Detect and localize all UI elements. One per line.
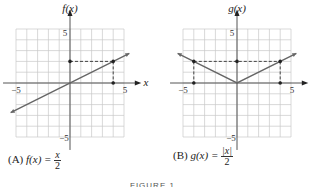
data-point bbox=[235, 60, 239, 64]
data-point bbox=[192, 81, 196, 85]
y-tick-label: 5 bbox=[230, 28, 235, 38]
y-tick-label: −5 bbox=[59, 133, 69, 143]
x-tick-label: 5 bbox=[290, 85, 295, 95]
y-axis-label: f(x) bbox=[62, 2, 78, 15]
caption-a-lhs: f(x) = bbox=[26, 153, 51, 165]
y-axis-label: g(x) bbox=[228, 2, 246, 15]
y-tick-label: −5 bbox=[226, 133, 236, 143]
caption-b-fraction: |x| 2 bbox=[221, 146, 233, 167]
x-tick-label: −5 bbox=[11, 85, 21, 95]
data-point bbox=[111, 81, 115, 85]
data-point bbox=[278, 60, 282, 64]
x-tick-label: −5 bbox=[178, 85, 188, 95]
caption-b-denominator: 2 bbox=[221, 157, 233, 167]
caption-b: (B) g(x) = |x| 2 bbox=[173, 146, 233, 167]
figure-caption: FIGURE 1 bbox=[130, 181, 175, 187]
caption-a-fraction: x 2 bbox=[54, 150, 60, 171]
caption-a-denominator: 2 bbox=[54, 161, 60, 171]
x-tick-label: 5 bbox=[123, 85, 128, 95]
data-point bbox=[192, 60, 196, 64]
x-axis-arrow-icon bbox=[302, 81, 308, 86]
graph-panel-a: 5−5−55f(x)x bbox=[3, 2, 148, 150]
x-axis-label: x bbox=[142, 76, 148, 88]
data-point bbox=[68, 60, 72, 64]
caption-b-lhs: g(x) = bbox=[190, 149, 218, 161]
graph-panel-b: 5−5−55g(x)x bbox=[170, 2, 310, 150]
caption-a: (A) f(x) = x 2 bbox=[8, 150, 61, 171]
caption-b-label: (B) bbox=[173, 149, 188, 161]
x-axis-arrow-icon bbox=[135, 81, 141, 86]
y-tick-label: 5 bbox=[63, 28, 68, 38]
data-point bbox=[111, 60, 115, 64]
caption-a-label: (A) bbox=[8, 153, 23, 165]
x-axis-label: x bbox=[309, 76, 310, 88]
data-point bbox=[278, 81, 282, 85]
